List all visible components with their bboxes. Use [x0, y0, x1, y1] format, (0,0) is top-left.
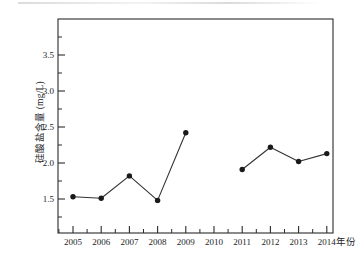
- line-chart-figure: 硅酸盐含量 (mg/L) 3.5 3.0 2.5 2.0 1.5 2005 20…: [0, 0, 363, 268]
- x-axis-tick-labels: 2005 2006 2007 2008 2009 2010 2011 2012 …: [0, 0, 363, 268]
- x-axis-title: 年份: [336, 237, 356, 247]
